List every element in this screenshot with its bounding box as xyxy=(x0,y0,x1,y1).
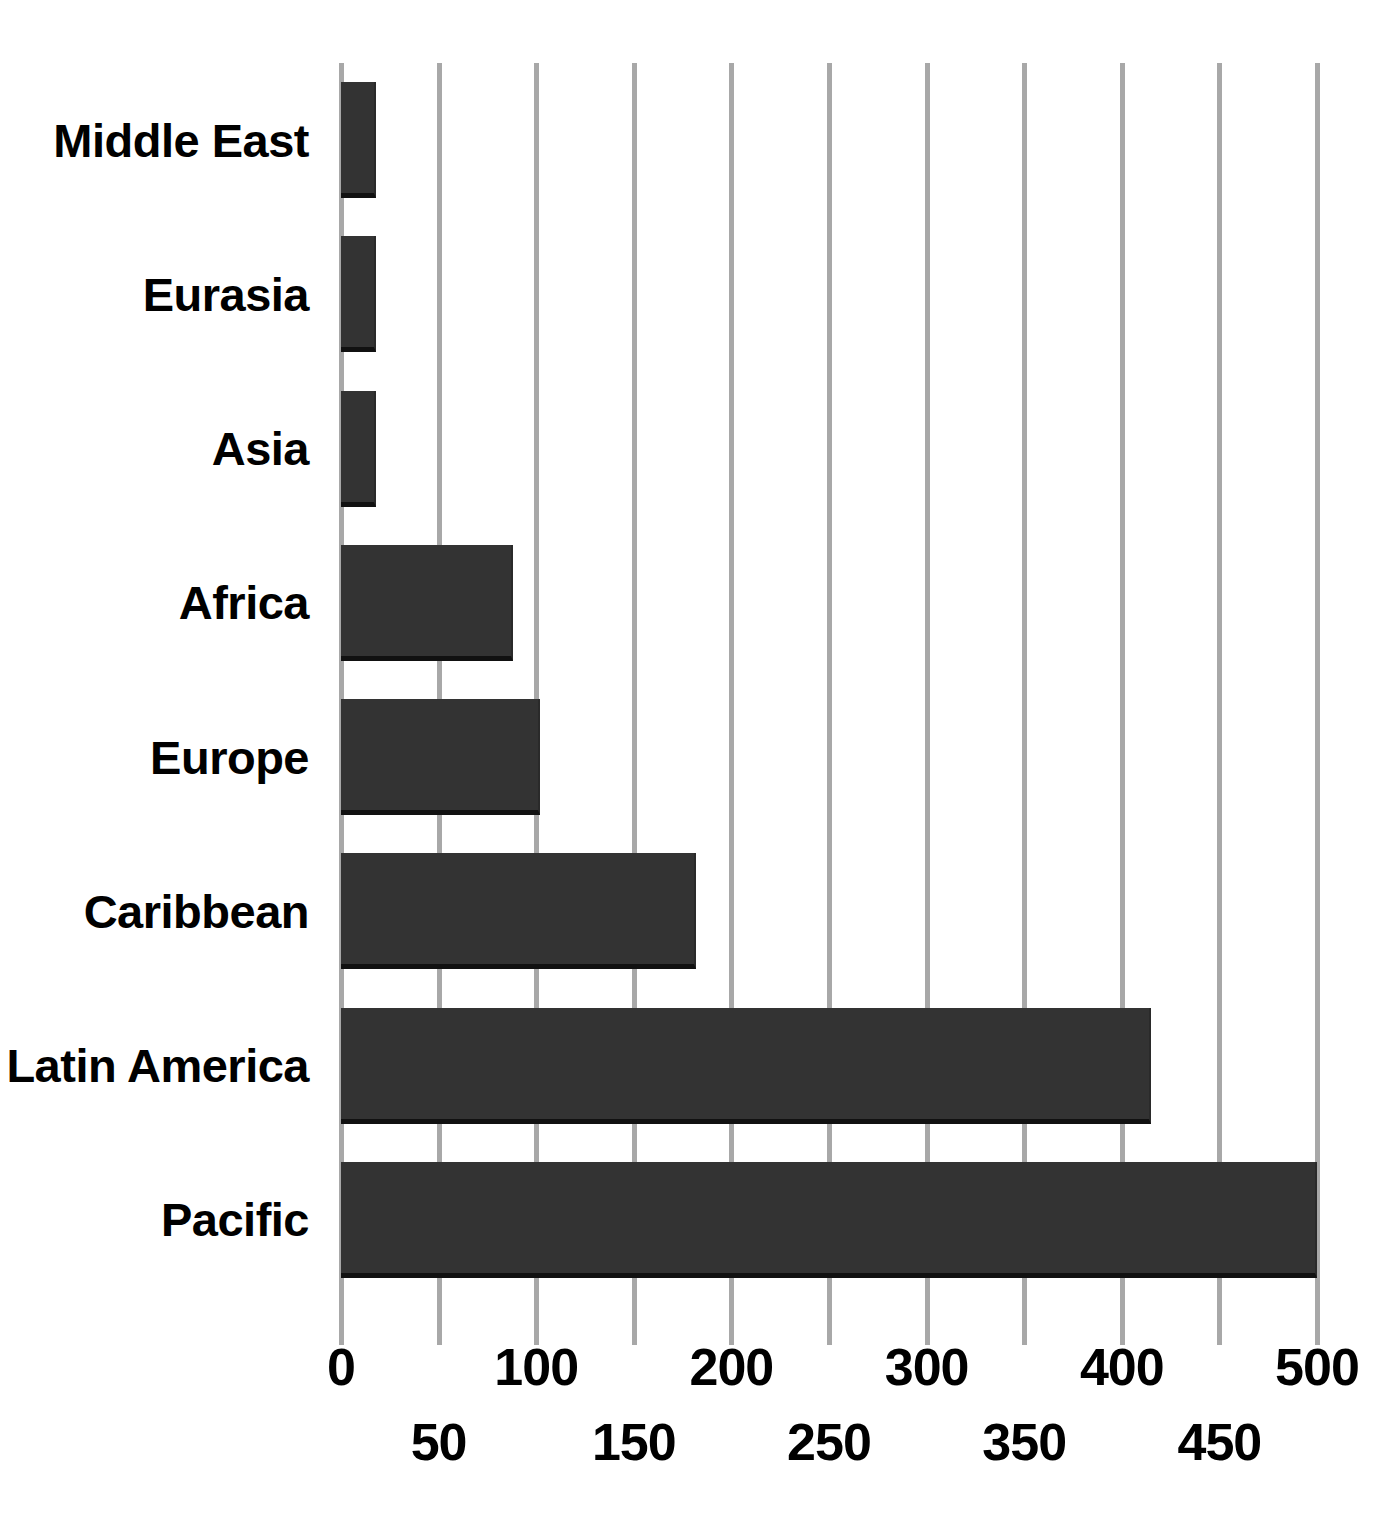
bar-band xyxy=(341,372,1317,526)
y-axis-label-eurasia: Eurasia xyxy=(0,217,325,371)
x-tick-label-500: 500 xyxy=(1275,1337,1359,1397)
bar-band xyxy=(341,989,1317,1143)
bar-pacific[interactable] xyxy=(341,1162,1317,1278)
bar-asia[interactable] xyxy=(341,391,376,507)
y-axis-label-africa: Africa xyxy=(0,526,325,680)
y-axis-label-asia: Asia xyxy=(0,372,325,526)
x-tick-label-50: 50 xyxy=(411,1412,467,1472)
bar-latin-america[interactable] xyxy=(341,1008,1151,1124)
y-axis-label-caribbean: Caribbean xyxy=(0,834,325,988)
y-axis-label-middle-east: Middle East xyxy=(0,63,325,217)
y-axis-label-europe: Europe xyxy=(0,680,325,834)
bar-africa[interactable] xyxy=(341,545,513,661)
bar-series xyxy=(341,63,1341,1297)
bar-eurasia[interactable] xyxy=(341,236,376,352)
x-tick-label-350: 350 xyxy=(982,1412,1066,1472)
x-axis-tick-labels-major: 0100200300400500 xyxy=(0,1337,1389,1407)
y-axis-label-pacific: Pacific xyxy=(0,1143,325,1297)
bar-band xyxy=(341,1143,1317,1297)
x-tick-label-250: 250 xyxy=(787,1412,871,1472)
bar-band xyxy=(341,680,1317,834)
x-tick-label-400: 400 xyxy=(1080,1337,1164,1397)
x-tick-label-200: 200 xyxy=(690,1337,774,1397)
y-axis-category-labels: Middle EastEurasiaAsiaAfricaEuropeCaribb… xyxy=(0,63,325,1297)
x-tick-label-100: 100 xyxy=(494,1337,578,1397)
x-tick-label-450: 450 xyxy=(1178,1412,1262,1472)
bar-band xyxy=(341,63,1317,217)
y-axis-label-latin-america: Latin America xyxy=(0,989,325,1143)
x-axis-tick-labels-minor: 50150250350450 xyxy=(0,1412,1389,1482)
bar-band xyxy=(341,834,1317,988)
x-tick-label-300: 300 xyxy=(885,1337,969,1397)
x-tick-label-0: 0 xyxy=(327,1337,355,1397)
bar-caribbean[interactable] xyxy=(341,853,696,969)
bar-band xyxy=(341,526,1317,680)
bar-europe[interactable] xyxy=(341,699,540,815)
bar-band xyxy=(341,217,1317,371)
bar-middle-east[interactable] xyxy=(341,82,376,198)
x-tick-label-150: 150 xyxy=(592,1412,676,1472)
